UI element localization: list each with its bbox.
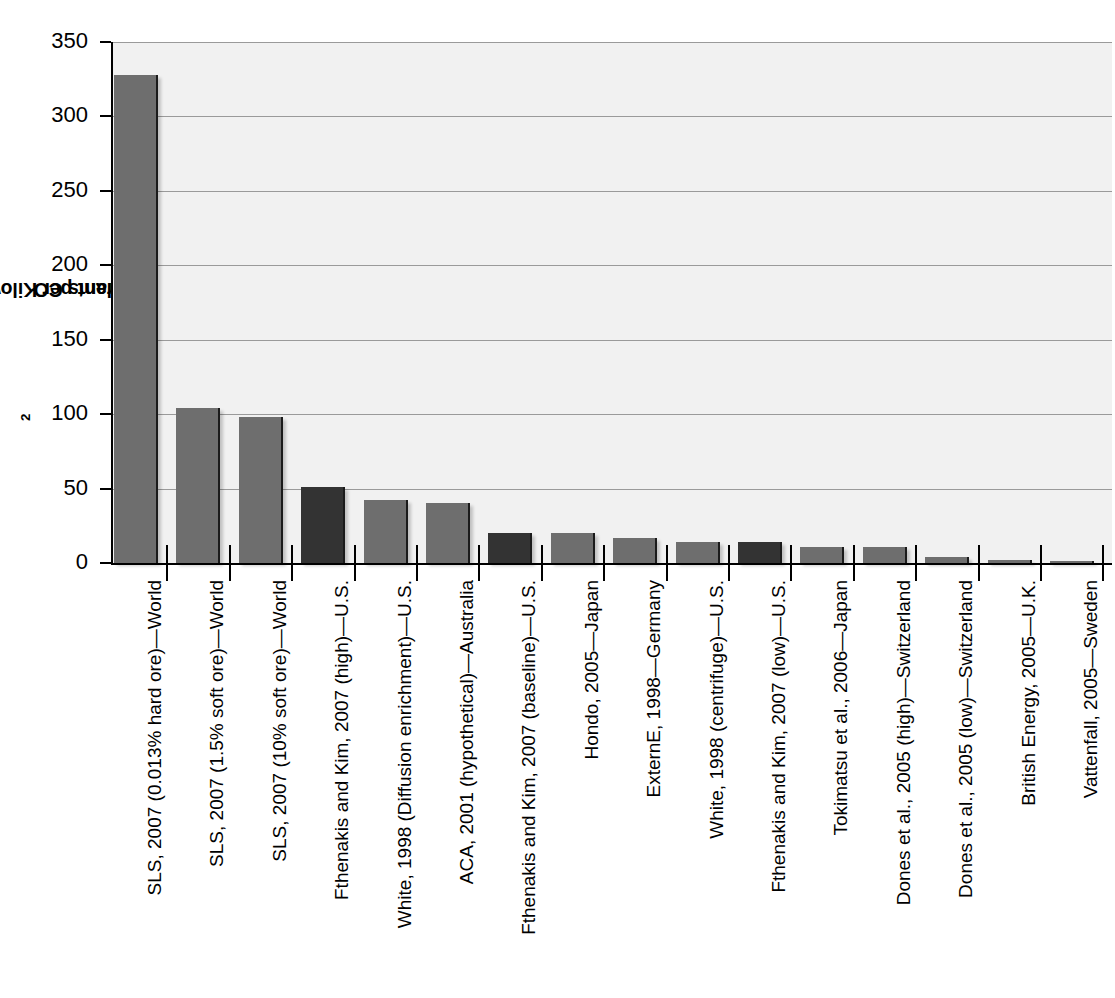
x-axis-tick — [790, 545, 792, 581]
y-axis-tick — [100, 413, 111, 415]
x-axis-label: White, 1998 (centrifuge)—U.S. — [707, 580, 727, 998]
gridline — [112, 340, 1112, 341]
x-axis-tick — [915, 545, 917, 581]
y-axis-tick — [100, 41, 111, 43]
x-axis-label: White, 1998 (Diffusion enrichment)—U.S. — [395, 580, 415, 998]
y-axis-tick-label: 300 — [32, 104, 88, 126]
x-axis-tick — [666, 545, 668, 581]
gridline — [112, 191, 1112, 192]
bar — [364, 500, 408, 563]
x-axis-label: Hondo, 2005—Japan — [582, 580, 602, 998]
bar — [551, 533, 595, 563]
y-axis-tick-label: 350 — [32, 30, 88, 52]
x-axis-label: SLS, 2007 (0.013% hard ore)—World — [145, 580, 165, 998]
x-axis-tick — [541, 545, 543, 581]
x-axis-label: ExternE, 1998—Germany — [644, 580, 664, 998]
x-axis-label: SLS, 2007 (10% soft ore)—World — [270, 580, 290, 998]
bar — [676, 542, 720, 563]
x-axis-label: ACA, 2001 (hypothetical)—Australia — [457, 580, 477, 998]
x-axis-tick — [603, 545, 605, 581]
x-axis-tick — [291, 545, 293, 581]
gridline — [112, 42, 1112, 43]
x-axis-tick — [1040, 545, 1042, 581]
bar-chart: Grams CO2 Equivalent per Kilowatt-hour 0… — [0, 0, 1115, 998]
x-axis-label: Tokimatsu et al., 2006—Japan — [831, 580, 851, 998]
y-axis-tick — [100, 264, 111, 266]
y-axis-title-subscript: 2 — [18, 414, 33, 421]
bar — [239, 417, 283, 563]
x-axis-tick — [728, 545, 730, 581]
bar — [176, 408, 220, 563]
x-axis-label: SLS, 2007 (1.5% soft ore)—World — [207, 580, 227, 998]
y-axis-tick — [100, 488, 111, 490]
x-axis-label: Fthenakis and Kim, 2007 (high)—U.S. — [332, 580, 352, 998]
bar — [738, 542, 782, 563]
x-axis-tick — [978, 545, 980, 581]
x-axis-tick — [416, 545, 418, 581]
bar — [488, 533, 532, 563]
y-axis-tick — [100, 190, 111, 192]
y-axis-tick-label: 0 — [32, 551, 88, 573]
y-axis-tick — [100, 562, 111, 564]
x-axis-tick — [853, 545, 855, 581]
y-axis-tick-label: 250 — [32, 179, 88, 201]
bar — [426, 503, 470, 563]
x-axis-label: Dones et al., 2005 (high)—Switzerland — [894, 580, 914, 998]
x-axis-line — [111, 563, 1112, 565]
y-axis-tick — [100, 339, 111, 341]
x-axis-tick — [166, 545, 168, 581]
x-axis-label: Fthenakis and Kim, 2007 (low)—U.S. — [769, 580, 789, 998]
x-axis-label: British Energy, 2005—U.K. — [1019, 580, 1039, 998]
y-axis-tick — [100, 115, 111, 117]
x-axis-tick — [354, 545, 356, 581]
gridline — [112, 265, 1112, 266]
plot-area — [112, 42, 1112, 563]
bar — [613, 538, 657, 563]
bar — [800, 547, 844, 563]
x-axis-label: Fthenakis and Kim, 2007 (baseline)—U.S. — [519, 580, 539, 998]
x-axis-label: Vattenfall, 2005—Sweden — [1081, 580, 1101, 998]
bar — [863, 547, 907, 563]
x-axis-tick — [478, 545, 480, 581]
gridline — [112, 116, 1112, 117]
bar — [301, 487, 345, 563]
y-axis-tick-label: 50 — [32, 477, 88, 499]
x-axis-tick — [229, 545, 231, 581]
y-axis-line — [111, 42, 113, 564]
y-axis-tick-label: 100 — [32, 402, 88, 424]
y-axis-tick-label: 150 — [32, 328, 88, 350]
gridline — [112, 414, 1112, 415]
y-axis-tick-label: 200 — [32, 253, 88, 275]
x-axis-label: Dones et al., 2005 (low)—Switzerland — [956, 580, 976, 998]
x-axis-tick — [1102, 545, 1104, 581]
bar — [114, 75, 158, 563]
